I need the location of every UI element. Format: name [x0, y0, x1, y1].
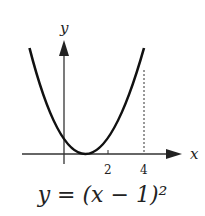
equation-caption: y = (x − 1)²: [0, 182, 205, 207]
tick-label-2: 2: [104, 163, 112, 177]
x-axis-arrow-icon: [166, 149, 182, 159]
y-axis-arrow-icon: [59, 40, 69, 56]
parabola-curve: [30, 48, 145, 154]
y-axis-label: y: [59, 19, 69, 37]
tick-label-4: 4: [140, 163, 148, 177]
x-axis-label: x: [190, 145, 199, 163]
